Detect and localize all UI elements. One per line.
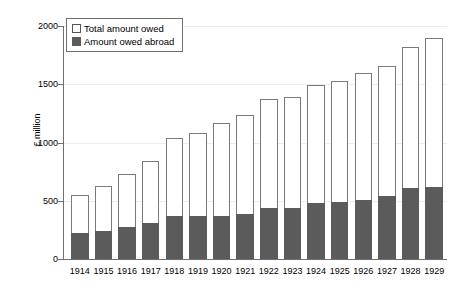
y-axis-tick-labels: 0500100015002000 (14, 26, 58, 260)
bar-amount-owed-abroad[interactable] (355, 200, 372, 259)
bar-amount-owed-abroad[interactable] (166, 216, 183, 259)
x-axis-tick-label: 1917 (138, 266, 164, 277)
x-axis-tick-label: 1926 (350, 266, 376, 277)
x-axis-tick-label: 1920 (209, 266, 235, 277)
y-axis-tick-label: 1000 (18, 139, 58, 148)
y-axis-tick-label: 0 (18, 255, 58, 264)
y-axis-line (63, 26, 64, 260)
bar-amount-owed-abroad[interactable] (118, 227, 135, 259)
y-axis-tick-label: 2000 (18, 22, 58, 31)
bar-group[interactable] (236, 25, 253, 259)
legend-swatch-icon (72, 37, 81, 46)
bar-amount-owed-abroad[interactable] (331, 202, 348, 259)
bar-chart: £ million 0500100015002000 1914191519161… (0, 0, 454, 290)
bar-group[interactable] (142, 25, 159, 259)
bar-amount-owed-abroad[interactable] (95, 231, 112, 259)
x-axis-tick-label: 1928 (398, 266, 424, 277)
bar-amount-owed-abroad[interactable] (71, 233, 88, 259)
x-axis-tick-label: 1915 (90, 266, 116, 277)
x-axis-tick-label: 1922 (256, 266, 282, 277)
bar-group[interactable] (71, 25, 88, 259)
x-axis-tick-label: 1916 (114, 266, 140, 277)
bar-group[interactable] (378, 25, 395, 259)
x-axis-tick-label: 1918 (161, 266, 187, 277)
y-axis-tick (58, 84, 63, 85)
bar-group[interactable] (166, 25, 183, 259)
bar-amount-owed-abroad[interactable] (142, 223, 159, 259)
y-axis-tick (58, 143, 63, 144)
x-axis-tick-label: 1914 (67, 266, 93, 277)
bar-group[interactable] (260, 25, 277, 259)
bar-amount-owed-abroad[interactable] (378, 196, 395, 259)
legend-label: Total amount owed (84, 23, 164, 34)
bar-amount-owed-abroad[interactable] (236, 214, 253, 259)
bar-amount-owed-abroad[interactable] (425, 187, 442, 259)
x-axis-tick-label: 1921 (232, 266, 258, 277)
bar-amount-owed-abroad[interactable] (402, 188, 419, 259)
bar-group[interactable] (425, 25, 442, 259)
y-axis-tick (58, 26, 63, 27)
bar-group[interactable] (307, 25, 324, 259)
x-axis-tick-label: 1925 (327, 266, 353, 277)
x-axis-tick-labels: 1914191519161917191819191920192119221923… (63, 266, 447, 280)
plot-area (63, 26, 447, 260)
bar-group[interactable] (189, 25, 206, 259)
x-axis-line (63, 259, 447, 260)
bar-group[interactable] (402, 25, 419, 259)
x-axis-tick-label: 1929 (421, 266, 447, 277)
bar-amount-owed-abroad[interactable] (260, 208, 277, 259)
bar-group[interactable] (284, 25, 301, 259)
legend-swatch-icon (72, 24, 81, 33)
legend-label: Amount owed abroad (84, 36, 174, 47)
bar-amount-owed-abroad[interactable] (189, 216, 206, 259)
x-axis-tick-label: 1923 (279, 266, 305, 277)
bar-group[interactable] (95, 25, 112, 259)
bar-group[interactable] (331, 25, 348, 259)
y-axis-tick (58, 201, 63, 202)
bar-amount-owed-abroad[interactable] (213, 216, 230, 259)
y-axis-tick-label: 500 (18, 197, 58, 206)
bar-group[interactable] (213, 25, 230, 259)
legend-item[interactable]: Amount owed abroad (72, 35, 174, 48)
bar-group[interactable] (355, 25, 372, 259)
bar-amount-owed-abroad[interactable] (284, 208, 301, 259)
y-axis-tick-label: 1500 (18, 80, 58, 89)
bar-amount-owed-abroad[interactable] (307, 203, 324, 259)
chart-legend: Total amount owedAmount owed abroad (66, 18, 183, 52)
bar-group[interactable] (118, 25, 135, 259)
legend-item[interactable]: Total amount owed (72, 22, 174, 35)
x-axis-tick-label: 1927 (374, 266, 400, 277)
x-axis-tick-label: 1919 (185, 266, 211, 277)
x-axis-tick-label: 1924 (303, 266, 329, 277)
